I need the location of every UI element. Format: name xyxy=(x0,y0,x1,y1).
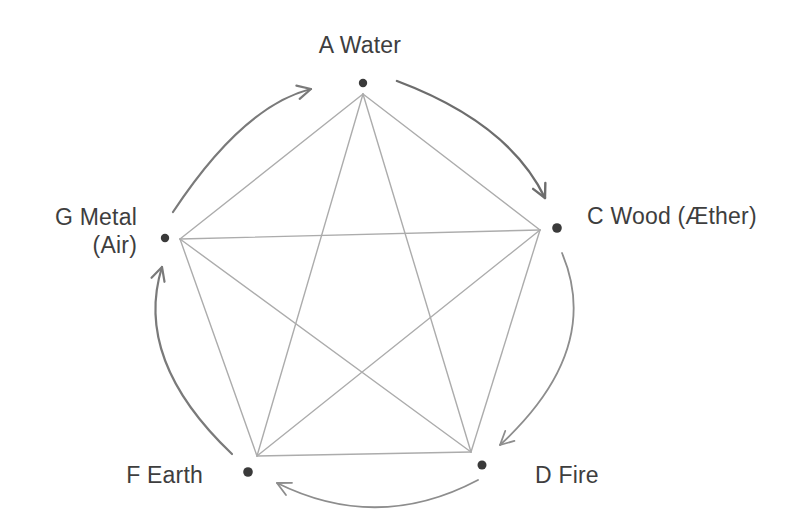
edge-fire-metal xyxy=(180,239,471,452)
node-label-metal: G Metal (Air) xyxy=(55,203,137,259)
node-dot-earth xyxy=(243,467,253,477)
edge-water-fire xyxy=(363,94,471,452)
node-label-text: G Metal xyxy=(55,203,137,231)
edge-water-earth xyxy=(257,94,363,456)
edge-fire-earth xyxy=(257,452,471,456)
node-dot-metal xyxy=(161,234,169,242)
node-label-text: C Wood (Æther) xyxy=(587,202,757,230)
node-label-text-line2: (Air) xyxy=(55,231,137,259)
cycle-arrow-wood-to-fire xyxy=(500,253,574,445)
node-label-wood: C Wood (Æther) xyxy=(587,202,757,230)
node-label-text: F Earth xyxy=(126,461,203,489)
node-label-water: A Water xyxy=(319,31,401,59)
element-cycle-diagram: A Water C Wood (Æther) D Fire F Earth G … xyxy=(0,0,803,528)
diagram-svg xyxy=(0,0,803,528)
edge-wood-metal xyxy=(180,230,540,239)
node-label-fire: D Fire xyxy=(535,461,599,489)
cycle-arrow-metal-to-water xyxy=(173,89,311,212)
node-label-earth: F Earth xyxy=(126,461,203,489)
edge-water-wood xyxy=(363,94,540,230)
edge-earth-metal xyxy=(180,239,257,456)
cycle-arrow-water-to-wood xyxy=(397,81,545,198)
node-dot-wood xyxy=(552,223,562,233)
edge-wood-fire xyxy=(471,230,540,452)
node-dot-water xyxy=(359,79,367,87)
node-dot-fire xyxy=(478,461,487,470)
cycle-arrow-earth-to-metal xyxy=(155,267,232,454)
node-label-text: D Fire xyxy=(535,461,599,489)
edge-wood-earth xyxy=(257,230,540,456)
node-label-text: A Water xyxy=(319,31,401,59)
cycle-arrow-fire-to-earth xyxy=(277,480,478,507)
